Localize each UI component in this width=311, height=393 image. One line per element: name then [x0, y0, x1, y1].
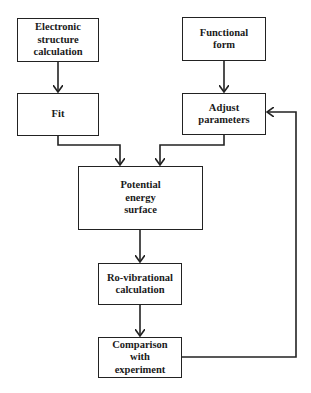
node-label: Fit [52, 108, 65, 121]
node-comparison-with-experiment: Comparison with experiment [98, 337, 182, 378]
node-label: Ro-vibrational calculation [107, 272, 173, 297]
edge-adjust-pes [160, 135, 224, 165]
node-label: Comparison with experiment [112, 339, 167, 377]
node-label: Potential energy surface [120, 179, 160, 217]
node-functional-form: Functional form [182, 17, 266, 61]
node-fit: Fit [17, 93, 99, 136]
node-electronic-structure: Electronic structure calculation [17, 18, 99, 62]
node-potential-energy-surface: Potential energy surface [78, 166, 203, 230]
edge-fit-pes [58, 136, 120, 165]
node-label: Adjust parameters [198, 102, 249, 127]
node-label: Electronic structure calculation [34, 21, 83, 59]
edge-feedback-comparison-adjust [182, 112, 296, 357]
node-label: Functional form [200, 27, 248, 52]
node-adjust-parameters: Adjust parameters [182, 93, 266, 135]
node-rovibrational-calculation: Ro-vibrational calculation [98, 263, 182, 305]
